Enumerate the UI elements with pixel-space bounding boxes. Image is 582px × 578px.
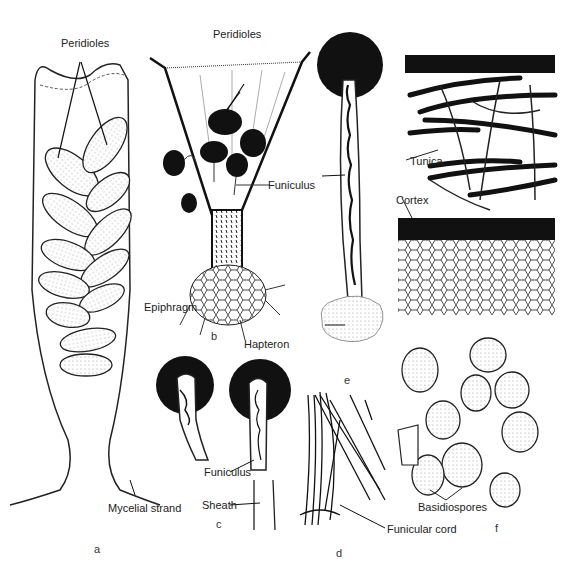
panel-d-drawing	[300, 392, 385, 528]
label-a-peridioles: Peridioles	[61, 37, 109, 49]
label-epiphragm: Epiphragm	[144, 301, 197, 313]
panel-letter-a: a	[94, 543, 100, 555]
panel-letter-b: b	[211, 330, 217, 342]
label-c-funiculus: Funiculus	[204, 466, 251, 478]
figure-drawing	[0, 0, 582, 578]
panel-letter-c: c	[216, 518, 222, 530]
label-b-funiculus: Funiculus	[268, 179, 315, 191]
bird-nest-fungus-figure: Peridioles Mycelial strand a Peridioles …	[0, 0, 582, 578]
panel-letter-d: d	[336, 547, 342, 559]
label-mycelial-strand: Mycelial strand	[108, 502, 181, 514]
label-cortex: Cortex	[396, 194, 428, 206]
label-funicular-cord: Funicular cord	[387, 523, 457, 535]
panel-f-drawing	[398, 55, 555, 507]
panel-letter-f: f	[495, 522, 498, 534]
label-hapteron: Hapteron	[244, 338, 289, 350]
panel-a-drawing	[10, 62, 160, 505]
label-sheath: Sheath	[202, 499, 237, 511]
label-b-peridioles: Peridioles	[213, 28, 261, 40]
panel-letter-e: e	[344, 374, 350, 386]
panel-b-drawing	[150, 52, 310, 340]
panel-e-drawing	[317, 32, 383, 342]
label-tunica: Tunica	[410, 155, 443, 167]
label-basidiospores: Basidiospores	[418, 501, 487, 513]
